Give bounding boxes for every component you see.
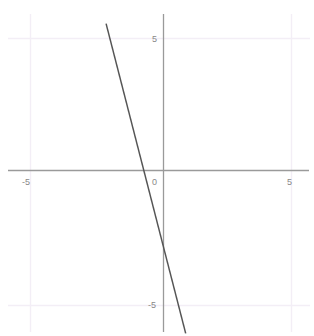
- line-segment: [106, 24, 186, 334]
- grid-lines: [8, 14, 310, 332]
- coordinate-plot: 5 -5 -5 5 0: [0, 0, 314, 336]
- data-series-line: [106, 24, 186, 334]
- y-axis-tick-label-negative: -5: [148, 301, 156, 310]
- origin-label: 0: [152, 178, 157, 187]
- x-axis-tick-label-negative: -5: [22, 178, 30, 187]
- plot-canvas: [0, 0, 314, 336]
- axes: [8, 14, 309, 332]
- y-axis-tick-label-positive: 5: [152, 35, 157, 44]
- x-axis-tick-label-positive: 5: [287, 178, 292, 187]
